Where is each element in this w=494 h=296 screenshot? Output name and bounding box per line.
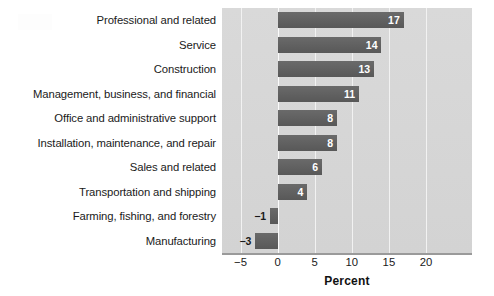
x-tick-label: 5 — [312, 256, 318, 268]
category-label: Manufacturing — [0, 235, 216, 247]
bar-value-label: 8 — [320, 135, 333, 151]
bar-chart-figure: Professional and relatedServiceConstruct… — [0, 0, 494, 296]
bar-value-label: −1 — [248, 208, 266, 224]
x-axis-line — [222, 253, 472, 255]
x-axis-title: Percent — [222, 274, 472, 288]
bar-value-label: 11 — [342, 86, 355, 102]
bar — [255, 233, 277, 249]
x-axis-tick-labels: −505101520 — [0, 256, 494, 272]
gridline-20 — [426, 8, 427, 253]
gridline-neg5 — [241, 8, 242, 253]
category-label: Sales and related — [0, 161, 216, 173]
category-axis-labels: Professional and relatedServiceConstruct… — [0, 10, 216, 250]
bar-value-label: 4 — [290, 184, 303, 200]
bar-value-label: 13 — [357, 61, 370, 77]
category-label: Farming, fishing, and forestry — [0, 210, 216, 222]
category-label: Management, business, and financial — [0, 88, 216, 100]
bar-value-label: 6 — [305, 159, 318, 175]
bar — [270, 208, 277, 224]
x-tick-label: 10 — [346, 256, 359, 268]
x-tick-label: 20 — [420, 256, 433, 268]
x-tick-label: 15 — [383, 256, 396, 268]
category-label: Construction — [0, 63, 216, 75]
category-label: Service — [0, 39, 216, 51]
x-tick-label: 0 — [274, 256, 280, 268]
category-label: Office and administrative support — [0, 112, 216, 124]
category-label: Professional and related — [0, 14, 216, 26]
bar-value-label: −3 — [233, 233, 251, 249]
bar — [278, 12, 404, 28]
bar-value-label: 17 — [387, 12, 400, 28]
x-tick-label: −5 — [234, 256, 247, 268]
bar-value-label: 8 — [320, 110, 333, 126]
gridline-15 — [389, 8, 390, 253]
category-label: Installation, maintenance, and repair — [0, 137, 216, 149]
bar-value-label: 14 — [365, 37, 378, 53]
plot-area: 171413118864−1−3 — [222, 8, 472, 253]
category-label: Transportation and shipping — [0, 186, 216, 198]
